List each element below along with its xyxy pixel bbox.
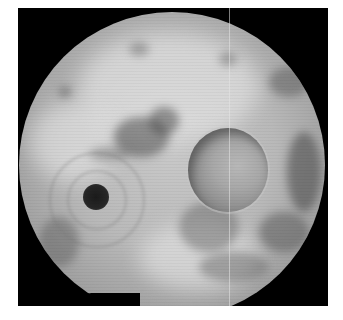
endoscope-field [19, 12, 325, 306]
dark-patch [269, 67, 309, 97]
dark-patch [219, 52, 237, 66]
dark-patch [259, 212, 309, 252]
round-lesion [188, 128, 268, 212]
dark-opening [83, 184, 109, 210]
black-frame [18, 8, 328, 306]
bottom-notch [18, 293, 140, 306]
image-page [0, 0, 343, 320]
dark-patch [287, 132, 321, 212]
vertical-artifact-line [229, 8, 230, 306]
dark-patch [59, 87, 71, 97]
dark-patch [149, 107, 179, 135]
dark-patch [129, 42, 149, 56]
dark-patch [199, 252, 269, 282]
